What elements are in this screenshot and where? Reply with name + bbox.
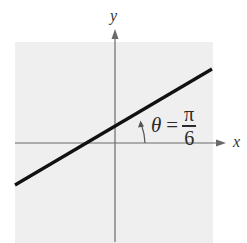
fraction-numerator: π: [183, 104, 195, 124]
angle-arc: [138, 121, 145, 144]
y-axis-arrow-icon: [112, 29, 119, 39]
y-axis: [112, 29, 119, 242]
inclination-diagram: y x θ = π 6: [0, 0, 247, 243]
y-axis-label: y: [110, 8, 117, 24]
angle-fraction: π 6: [182, 104, 196, 148]
x-axis-arrow-icon: [216, 140, 226, 147]
angle-arrow-icon: [138, 121, 144, 128]
angle-label: θ = π 6: [151, 104, 196, 148]
graph-canvas: [0, 0, 247, 243]
equals-sign: =: [166, 113, 178, 138]
fraction-denominator: 6: [184, 128, 194, 148]
x-axis-label: x: [233, 134, 240, 150]
theta-symbol: θ: [151, 113, 161, 138]
